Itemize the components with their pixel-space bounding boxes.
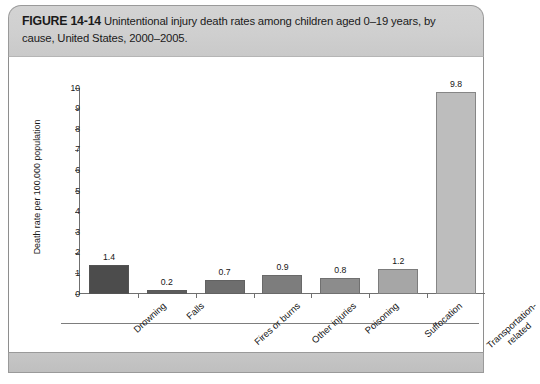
bar (147, 290, 187, 294)
bar (89, 265, 129, 294)
figure-body: Death rate per 100,000 population 012345… (8, 56, 484, 352)
bars-area: 1.40.20.70.90.81.29.8 (80, 88, 485, 294)
y-axis-tick-label: 10 (58, 84, 80, 92)
bar (320, 278, 360, 294)
y-axis-tick-row: 0 (49, 290, 80, 298)
bar-group: 0.2 (138, 88, 196, 294)
figure-container: FIGURE 14-14 Unintentional injury death … (8, 5, 484, 373)
y-axis-tick-row: 3 (49, 228, 80, 236)
bar-group: 0.8 (311, 88, 369, 294)
y-axis-tick-row: 1 (49, 269, 80, 277)
bar-group: 1.2 (369, 88, 427, 294)
bar-group: 0.9 (254, 88, 312, 294)
bar-value-label: 0.2 (161, 278, 173, 287)
y-axis-tick-label: 8 (58, 125, 80, 133)
y-axis-tick-row: 7 (49, 145, 80, 153)
figure-footer-band (8, 352, 484, 373)
y-axis-tick-row: 8 (49, 125, 80, 133)
y-axis-tick-row: 4 (49, 207, 80, 215)
x-axis-tick (311, 294, 312, 298)
y-axis-tick-row: 6 (49, 166, 80, 174)
y-axis-tick-label: 3 (58, 228, 80, 236)
x-axis-tick (427, 294, 428, 298)
bar-group: 9.8 (427, 88, 485, 294)
bar-value-label: 0.9 (276, 263, 288, 272)
x-axis-label: Transportation-related (484, 300, 540, 359)
bar (436, 92, 476, 294)
bar-value-label: 0.7 (219, 268, 231, 277)
y-axis-tick-label: 5 (58, 187, 80, 195)
y-axis-tick-label: 7 (58, 145, 80, 153)
y-axis-tick-label: 0 (58, 290, 80, 298)
y-axis-tick-row: 5 (49, 187, 80, 195)
bar-value-label: 1.4 (103, 253, 115, 262)
bar (262, 275, 302, 294)
y-axis-tick-row: 9 (49, 104, 80, 112)
x-axis-tick (196, 294, 197, 298)
y-axis-tick-label: 4 (58, 207, 80, 215)
y-axis-tick-label: 1 (58, 269, 80, 277)
bar-value-label: 1.2 (392, 257, 404, 266)
figure-number-label: FIGURE 14-14 (22, 14, 101, 28)
bar-group: 1.4 (80, 88, 138, 294)
figure-caption: FIGURE 14-14 Unintentional injury death … (22, 13, 468, 46)
figure-caption-band: FIGURE 14-14 Unintentional injury death … (8, 5, 484, 57)
y-axis-tick-label: 6 (58, 166, 80, 174)
y-axis-tick-label: 2 (58, 248, 80, 256)
bar (378, 269, 418, 294)
y-axis-tick-row: 2 (49, 248, 80, 256)
x-axis-tick (369, 294, 370, 298)
bar-value-label: 9.8 (450, 80, 462, 89)
bar (205, 280, 245, 294)
x-axis-tick (254, 294, 255, 298)
bar-chart: Death rate per 100,000 population 012345… (9, 57, 485, 353)
y-axis-title: Death rate per 100,000 population (32, 99, 42, 275)
x-axis-tick (138, 294, 139, 298)
y-axis-tick-label: 9 (58, 104, 80, 112)
y-axis-tick-row: 10 (49, 84, 80, 92)
bar-value-label: 0.8 (334, 266, 346, 275)
bar-group: 0.7 (196, 88, 254, 294)
